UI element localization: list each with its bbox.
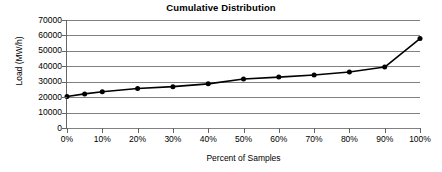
y-axis-tick-label: 70000 (18, 16, 62, 25)
x-axis-tick-label: 70% (294, 135, 334, 144)
x-axis-tick-label: 30% (153, 135, 193, 144)
y-axis-tick-label: 10000 (18, 108, 62, 117)
y-axis-tick-label: 20000 (18, 93, 62, 102)
y-axis-tick-labels: 010000200003000040000500006000070000 (16, 0, 62, 172)
x-axis-tick-mark (244, 128, 245, 133)
y-axis-tick-mark (62, 82, 67, 83)
x-axis-tick-mark (279, 128, 280, 133)
gridline-horizontal (67, 66, 420, 67)
y-axis-tick-label: 30000 (18, 77, 62, 86)
y-axis-tick-mark (62, 20, 67, 21)
cumulative-distribution-chart: Cumulative Distribution Load (MW/h) 0100… (0, 0, 442, 172)
x-axis-tick-label: 80% (329, 135, 369, 144)
y-axis-tick-mark (62, 66, 67, 67)
y-axis-tick-label: 50000 (18, 46, 62, 55)
x-axis-tick-label: 40% (188, 135, 228, 144)
gridline-horizontal (67, 97, 420, 98)
x-axis-tick-label: 100% (400, 135, 440, 144)
x-axis-tick-mark (67, 128, 68, 133)
gridline-horizontal (67, 35, 420, 36)
x-axis-tick-label: 10% (82, 135, 122, 144)
x-axis-tick-label: 20% (118, 135, 158, 144)
y-axis-tick-mark (62, 51, 67, 52)
x-axis-tick-mark (138, 128, 139, 133)
x-axis-tick-label: 50% (224, 135, 264, 144)
y-axis-tick-mark (62, 35, 67, 36)
x-axis-tick-mark (208, 128, 209, 133)
x-axis-label: Percent of Samples (67, 153, 420, 163)
x-axis-tick-mark (102, 128, 103, 133)
y-axis-tick-mark (62, 97, 67, 98)
gridline-horizontal (67, 82, 420, 83)
y-axis-tick-label: 60000 (18, 31, 62, 40)
y-axis-tick-mark (62, 113, 67, 114)
x-axis-tick-mark (349, 128, 350, 133)
plot-area (67, 20, 420, 128)
x-axis-tick-mark (173, 128, 174, 133)
x-axis-tick-mark (385, 128, 386, 133)
y-axis-tick-label: 0 (18, 124, 62, 133)
x-axis-tick-mark (314, 128, 315, 133)
gridline-horizontal (67, 51, 420, 52)
x-axis-tick-label: 90% (365, 135, 405, 144)
x-axis-tick-mark (420, 128, 421, 133)
y-axis-tick-label: 40000 (18, 62, 62, 71)
gridline-horizontal (67, 113, 420, 114)
gridline-horizontal (67, 20, 420, 21)
chart-title: Cumulative Distribution (0, 2, 442, 13)
x-axis-tick-label: 60% (259, 135, 299, 144)
x-axis-tick-label: 0% (47, 135, 87, 144)
